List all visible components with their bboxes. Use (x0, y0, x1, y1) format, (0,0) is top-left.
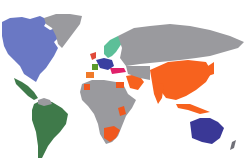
region-central-america (14, 78, 38, 100)
region-west-africa (84, 84, 90, 90)
region-australia (190, 118, 224, 144)
region-new-zealand (230, 140, 236, 150)
region-russia (118, 24, 244, 66)
region-india (152, 82, 164, 104)
region-iberia (86, 72, 94, 78)
region-france (92, 64, 98, 70)
region-indonesia (176, 104, 210, 114)
region-japan (208, 62, 214, 76)
region-south-america (32, 100, 68, 158)
region-southeast-europe (110, 68, 126, 74)
region-north-africa-east (116, 82, 124, 88)
world-map (0, 0, 250, 163)
region-uk (90, 52, 96, 60)
world-map-svg (0, 0, 250, 163)
